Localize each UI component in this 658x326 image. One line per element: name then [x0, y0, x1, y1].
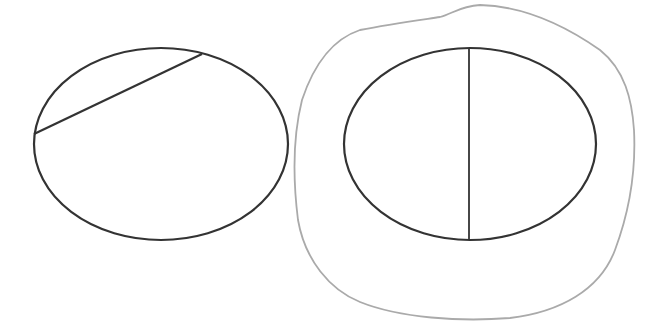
diagram-canvas [0, 0, 658, 326]
left-figure [34, 48, 288, 240]
left-ellipse [34, 48, 288, 240]
right-ellipse [344, 48, 596, 240]
left-chord [34, 54, 202, 134]
right-figure [344, 48, 596, 240]
